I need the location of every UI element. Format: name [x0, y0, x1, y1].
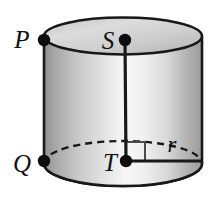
point-dot-Q: [38, 155, 50, 167]
point-dot-T: [120, 155, 132, 167]
label-Q: Q: [13, 150, 31, 177]
cylinder-diagram: P S Q T r: [0, 0, 215, 212]
point-dot-S: [119, 34, 131, 46]
cylinder-figure-container: P S Q T r: [0, 0, 215, 212]
label-P: P: [13, 26, 29, 53]
segment-ST-axis: [125, 40, 126, 161]
label-S: S: [102, 27, 115, 54]
point-dot-P: [38, 34, 50, 46]
label-T: T: [103, 149, 119, 176]
label-r: r: [168, 132, 178, 157]
